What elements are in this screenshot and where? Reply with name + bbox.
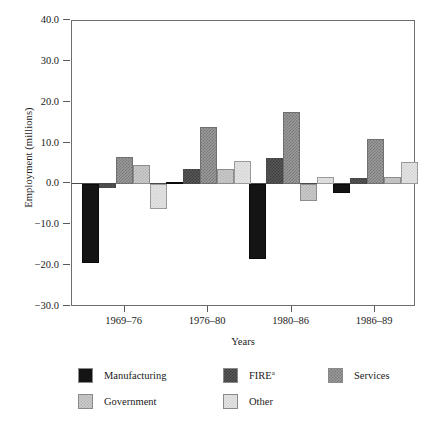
bar-manufacturing-1986-89	[333, 184, 350, 193]
bar-other-1976-80	[234, 161, 251, 185]
chart-legend: ManufacturingFIREaServicesGovernmentOthe…	[78, 362, 408, 414]
legend-swatch-fire-icon	[223, 368, 238, 383]
x-axis-tick-label: 1969–76	[79, 315, 169, 326]
y-axis-tick-label: 30.0	[0, 54, 59, 67]
y-axis-tick-label: −20.0	[0, 258, 59, 271]
chart-figure: Employment (millions) 40.030.020.010.00.…	[0, 0, 424, 421]
bar-services-1980-86	[283, 112, 300, 185]
bar-services-1986-89	[367, 139, 384, 185]
legend-row: GovernmentOther	[78, 388, 408, 414]
bar-government-1986-89	[384, 177, 401, 185]
legend-item-government[interactable]: Government	[78, 394, 223, 409]
legend-label-services: Services	[354, 370, 390, 381]
x-axis-title: Years	[71, 336, 415, 347]
y-axis-tick-label: 20.0	[0, 95, 59, 108]
x-axis-tick-label: 1980–86	[246, 315, 336, 326]
legend-swatch-manufacturing-icon	[78, 368, 93, 383]
legend-label-government: Government	[104, 396, 157, 407]
bar-manufacturing-1976-80	[166, 182, 183, 184]
plot-area	[71, 20, 415, 306]
legend-row: ManufacturingFIREaServices	[78, 362, 408, 388]
legend-item-services[interactable]: Services	[328, 368, 408, 383]
y-axis-tick-label: 40.0	[0, 13, 59, 26]
bar-fire-1976-80	[183, 169, 200, 185]
bar-other-1986-89	[401, 162, 418, 184]
legend-footnote-marker: a	[272, 368, 275, 376]
y-axis-tick-label: 0.0	[0, 176, 59, 189]
x-axis-tick-label: 1976–80	[162, 315, 252, 326]
x-axis-tick-mark	[291, 306, 292, 312]
y-axis-tick-mark	[63, 223, 70, 224]
bar-fire-1969-76	[99, 184, 116, 187]
y-axis-tick-mark	[63, 101, 70, 102]
bar-other-1969-76	[150, 184, 167, 209]
bar-government-1976-80	[217, 169, 234, 185]
y-axis-tick-mark	[63, 142, 70, 143]
y-axis-tick-label: −30.0	[0, 299, 59, 312]
bar-other-1980-86	[317, 177, 334, 185]
bar-services-1969-76	[116, 157, 133, 185]
legend-label-fire: FIREa	[249, 370, 275, 381]
bar-government-1969-76	[133, 165, 150, 185]
legend-item-fire[interactable]: FIREa	[223, 368, 328, 383]
legend-item-manufacturing[interactable]: Manufacturing	[78, 368, 223, 383]
legend-swatch-services-icon	[328, 368, 343, 383]
bar-fire-1986-89	[350, 178, 367, 184]
y-axis-tick-label: 10.0	[0, 136, 59, 149]
x-axis-tick-mark	[374, 306, 375, 312]
plot-inner	[72, 21, 414, 305]
y-axis-tick-mark	[63, 305, 70, 306]
bar-manufacturing-1969-76	[82, 184, 99, 262]
x-axis-tick-mark	[124, 306, 125, 312]
legend-swatch-other-icon	[223, 394, 238, 409]
x-axis-tick-mark	[207, 306, 208, 312]
y-axis-tick-mark	[63, 182, 70, 183]
y-axis-tick-mark	[63, 19, 70, 20]
y-axis-tick-label: −10.0	[0, 217, 59, 230]
bar-fire-1980-86	[266, 158, 283, 184]
y-axis-tick-mark	[63, 60, 70, 61]
legend-item-other[interactable]: Other	[223, 394, 328, 409]
y-axis-tick-mark	[63, 264, 70, 265]
bar-manufacturing-1980-86	[249, 184, 266, 258]
legend-label-other: Other	[249, 396, 273, 407]
bar-services-1976-80	[200, 127, 217, 184]
x-axis-tick-label: 1986–89	[329, 315, 419, 326]
legend-swatch-government-icon	[78, 394, 93, 409]
bar-government-1980-86	[300, 184, 317, 201]
legend-label-manufacturing: Manufacturing	[104, 370, 166, 381]
